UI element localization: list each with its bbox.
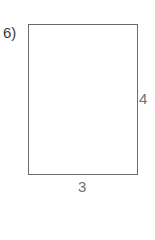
problem-number: 6) xyxy=(3,24,16,42)
width-label: 3 xyxy=(78,178,86,196)
rectangle-shape xyxy=(28,24,138,175)
height-label: 4 xyxy=(139,90,147,108)
